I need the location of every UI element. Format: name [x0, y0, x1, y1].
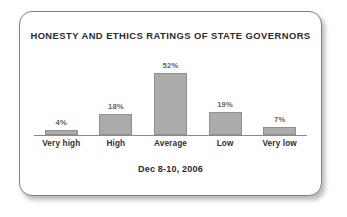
bar-value-very-low: 7%: [274, 116, 285, 124]
bar-slot-average: 52%: [143, 52, 198, 135]
bar-value-high: 18%: [108, 103, 124, 111]
category-label-row: Very high High Average Low Very low: [34, 139, 307, 148]
bar-group: 4% 18% 52% 19% 7%: [34, 52, 307, 135]
x-axis-line: [34, 135, 307, 136]
chart-date-footer: Dec 8-10, 2006: [20, 164, 321, 174]
bar-value-average: 52%: [163, 62, 179, 70]
bar-slot-high: 18%: [89, 52, 144, 135]
chart-title: HONESTY AND ETHICS RATINGS OF STATE GOVE…: [20, 30, 321, 41]
bar-high: [99, 114, 132, 135]
category-label-very-high: Very high: [34, 139, 89, 148]
category-label-very-low: Very low: [252, 139, 307, 148]
category-label-average: Average: [143, 139, 198, 148]
bar-value-low: 19%: [217, 101, 233, 109]
bar-average: [154, 73, 187, 135]
bar-low: [209, 112, 242, 135]
bar-slot-low: 19%: [198, 52, 253, 135]
bar-value-very-high: 4%: [56, 119, 67, 127]
chart-card: HONESTY AND ETHICS RATINGS OF STATE GOVE…: [19, 11, 322, 196]
bar-very-low: [263, 127, 296, 135]
plot-area: 4% 18% 52% 19% 7%: [34, 52, 307, 136]
screenshot-root: HONESTY AND ETHICS RATINGS OF STATE GOVE…: [0, 0, 347, 217]
bar-slot-very-low: 7%: [252, 52, 307, 135]
category-label-high: High: [89, 139, 144, 148]
bar-slot-very-high: 4%: [34, 52, 89, 135]
category-label-low: Low: [198, 139, 253, 148]
